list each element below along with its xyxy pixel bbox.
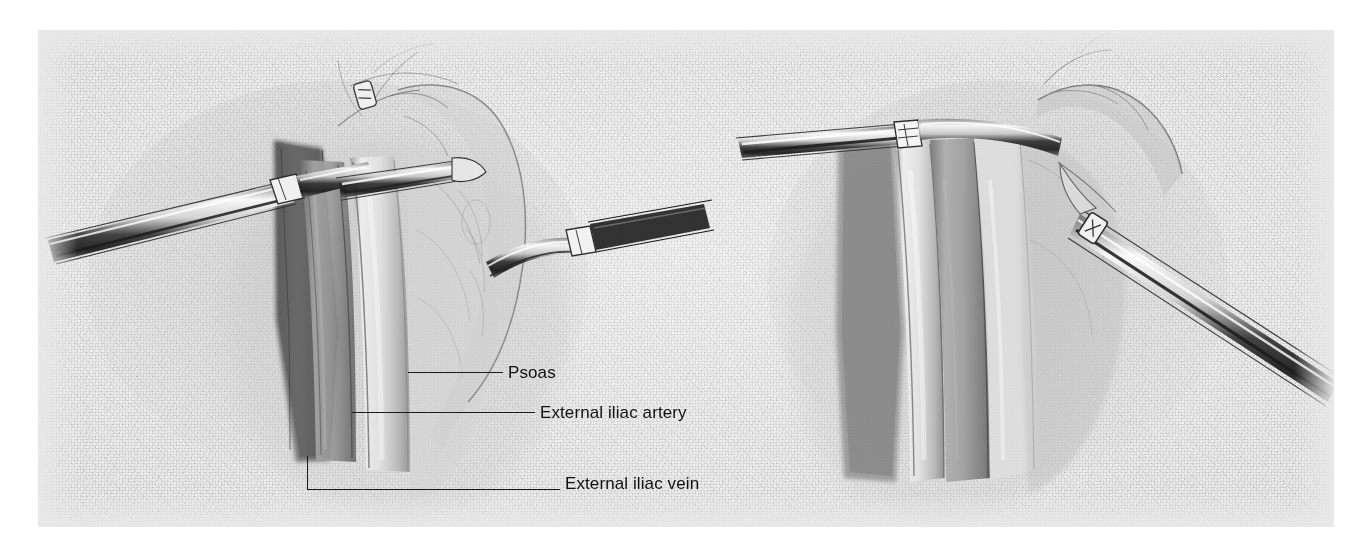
illustration-plate [38,30,1334,527]
leader-line-psoas [408,372,503,373]
leader-line-external-iliac-vein-horizontal [307,489,560,490]
left-panel-group [46,44,714,520]
label-external-iliac-vein: External iliac vein [565,474,699,494]
leader-line-external-iliac-vein-vertical [307,456,308,490]
label-external-iliac-artery: External iliac artery [540,403,687,423]
illustration-page: Psoas External iliac artery External ili… [0,0,1366,555]
right-panel-group [736,30,1334,525]
anatomical-drawing [38,30,1334,527]
leader-line-external-iliac-artery [352,412,535,413]
label-psoas: Psoas [508,363,556,383]
